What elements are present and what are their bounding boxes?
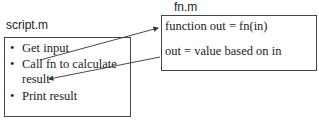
call-arrow [40,28,158,60]
arrows-layer [0,0,319,124]
return-arrow [49,57,160,79]
